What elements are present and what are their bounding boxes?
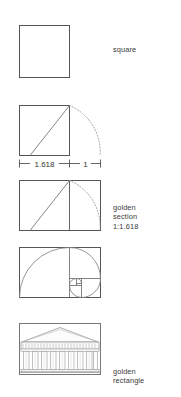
dimension-label-right: 1 (83, 160, 88, 169)
golden-ratio-figure: square 1.618 1 golden section 1:1.618 (0, 0, 181, 397)
section-diagonal-line (30, 106, 70, 156)
panel-parthenon: proportions of the Parthenon (0, 315, 181, 397)
caption-square: square (113, 45, 136, 54)
square-diagram (0, 0, 181, 95)
golden-rectangle-outline (20, 181, 101, 231)
section-square-outline (20, 106, 70, 156)
golden-rectangle-diagram (0, 175, 181, 240)
square-outline (20, 26, 70, 78)
parthenon-architrave (21, 349, 99, 352)
panel-golden-section: 1.618 1 golden section 1:1.618 (0, 95, 181, 175)
section-arc (70, 106, 101, 156)
fibonacci-spiral (20, 248, 101, 298)
parthenon-diagram (0, 315, 181, 397)
sequence-outer-rect (20, 248, 101, 298)
golden-rectangle-diagonal (30, 181, 70, 231)
parthenon-stylobate (21, 370, 99, 372)
parthenon-entablature (21, 342, 99, 349)
panel-square: square (0, 0, 181, 95)
panel-golden-rectangle: golden rectangle (0, 175, 181, 240)
panel-sequence: sequence of golden rectangles (0, 240, 181, 315)
golden-rectangle-arc (70, 181, 101, 231)
golden-section-diagram: 1.618 1 (0, 95, 181, 175)
dimension-label-left: 1.618 (34, 160, 55, 169)
parthenon-columns (24, 352, 98, 370)
sequence-diagram (0, 240, 181, 315)
